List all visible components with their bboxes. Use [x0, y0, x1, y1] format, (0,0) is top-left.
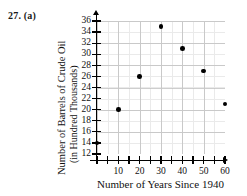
data-point [201, 69, 206, 74]
x-tick-label: 40 [171, 166, 193, 176]
figure-container: 27. (a) Number of Barrels of Crude Oil (… [0, 0, 247, 196]
data-point [116, 107, 121, 112]
data-point [137, 74, 142, 79]
data-point [180, 46, 185, 51]
data-point [159, 24, 164, 29]
x-axis-labels: 102030405060 [0, 0, 247, 196]
x-tick-label: 30 [150, 166, 172, 176]
x-tick-label: 50 [193, 166, 215, 176]
x-tick-label: 60 [214, 166, 236, 176]
x-tick-label: 20 [129, 166, 151, 176]
x-axis-title: Number of Years Since 1940 [74, 178, 247, 190]
x-tick-label: 10 [107, 166, 129, 176]
